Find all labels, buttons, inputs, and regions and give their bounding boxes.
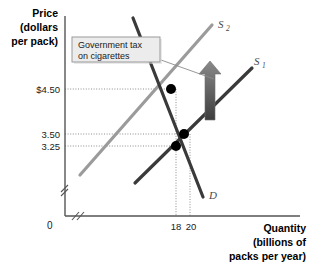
- curve-labels: S 2 S 1 D: [208, 18, 266, 201]
- y-tick-labels: $4.50 3.50 3.25: [36, 84, 60, 152]
- curve-label-d: D: [208, 189, 217, 201]
- x-tick-labels: 18 20: [171, 221, 197, 232]
- curve-label-s1-subscript: 1: [262, 61, 266, 70]
- point-new-equilibrium: [166, 84, 176, 94]
- y-tick-350: 3.50: [42, 129, 61, 140]
- x-axis-title-line-2: (billions of: [253, 236, 307, 248]
- x-axis-title-line-3: packs per year): [229, 250, 306, 262]
- shift-arrow-glyph: [199, 61, 221, 120]
- y-tick-450: $4.50: [36, 84, 60, 95]
- origin-label: 0: [47, 220, 53, 231]
- y-axis-title-line-1: Price: [32, 7, 58, 19]
- curve-label-s1: S: [254, 55, 260, 67]
- x-axis-title-line-1: Quantity: [263, 222, 306, 234]
- callout-line-2: on cigarettes: [78, 51, 130, 61]
- x-axis-title: Quantity (billions of packs per year): [229, 222, 307, 262]
- chart-svg: Government tax on cigarettes S 2 S 1 D $…: [0, 0, 311, 270]
- curve-label-s2: S: [218, 18, 224, 30]
- y-axis-title: Price (dollars per pack): [11, 7, 58, 47]
- supply-shift-arrow: [199, 61, 221, 120]
- supply-curve-s1: [135, 68, 252, 183]
- point-original-equilibrium: [179, 129, 189, 139]
- y-tick-325: 3.25: [42, 141, 61, 152]
- x-tick-20: 20: [186, 221, 197, 232]
- gridlines: [65, 89, 190, 216]
- tax-callout: Government tax on cigarettes: [72, 37, 162, 64]
- y-axis-title-line-2: (dollars: [20, 21, 58, 33]
- callout-line-1: Government tax: [78, 40, 143, 50]
- supply-demand-figure: Government tax on cigarettes S 2 S 1 D $…: [0, 0, 311, 270]
- x-tick-18: 18: [171, 221, 182, 232]
- y-axis-title-line-3: per pack): [11, 35, 58, 47]
- curve-label-s2-subscript: 2: [226, 24, 230, 33]
- point-net-price-to-sellers: [171, 141, 181, 151]
